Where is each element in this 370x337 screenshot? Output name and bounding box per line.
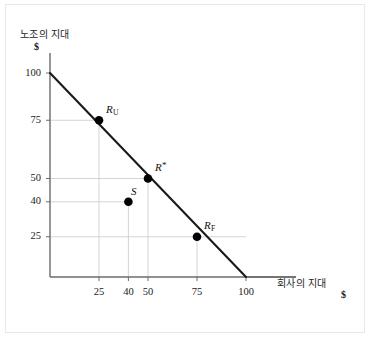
- x-tick-label-75: 75: [184, 286, 210, 297]
- y-axis-unit: $: [34, 41, 39, 52]
- point-s: [124, 198, 133, 207]
- y-tick-label-75: 75: [15, 114, 41, 125]
- point-label-rstar-sup: *: [162, 160, 167, 170]
- point-label-rf-base: R: [204, 219, 211, 231]
- point-label-ru: RU: [106, 103, 118, 115]
- y-tick-label-100: 100: [15, 67, 41, 78]
- y-tick-label-40: 40: [15, 195, 41, 206]
- x-tick-label-100: 100: [233, 286, 259, 297]
- point-rstar: [144, 174, 153, 183]
- point-ru: [95, 116, 104, 125]
- point-label-rf: RF: [204, 219, 215, 231]
- point-label-ru-sub: U: [113, 108, 118, 117]
- y-tick-label-25: 25: [15, 230, 41, 241]
- point-rf: [193, 232, 202, 241]
- x-tick-label-50: 50: [135, 286, 161, 297]
- gridlines-vertical: [99, 120, 197, 277]
- x-axis-unit: $: [341, 289, 346, 300]
- point-label-s-base: S: [131, 185, 137, 197]
- point-label-rstar-base: R: [155, 161, 162, 173]
- chart-figure: 노조의 지대 $ 회사의 지대 $ 100 75 50 40 25 25 40 …: [0, 0, 370, 337]
- point-label-s: S: [131, 185, 137, 197]
- point-label-rstar: R*: [155, 161, 166, 173]
- point-label-rf-sub: F: [211, 224, 215, 233]
- x-axis-title: 회사의 지대: [277, 275, 327, 290]
- point-label-ru-base: R: [106, 103, 113, 115]
- x-tick-label-25: 25: [86, 286, 112, 297]
- y-axis-title: 노조의 지대: [20, 26, 70, 41]
- y-tick-label-50: 50: [15, 172, 41, 183]
